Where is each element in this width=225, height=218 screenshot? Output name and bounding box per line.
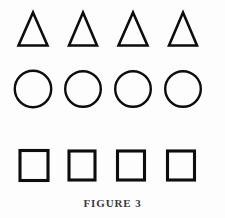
circle-shape-1 [13,68,53,108]
triangle-shape-4 [163,9,203,49]
square-icon [62,146,102,186]
square-shape-3 [111,146,151,186]
square-shape-1 [14,146,54,186]
circle-shape-4 [163,68,203,108]
triangle-shape-3 [113,9,153,49]
circle-icon [13,68,53,108]
square-icon [111,146,151,186]
figure-caption: FIGURE 3 [0,197,225,209]
shape-row-triangles [0,9,225,49]
shape-row-circles [0,68,225,108]
square-shape-2 [62,146,102,186]
circle-icon [113,68,153,108]
square-icon [14,146,54,186]
triangle-shape-2 [63,9,103,49]
triangle-icon [163,9,203,49]
circle-shape-3 [113,68,153,108]
square-icon [161,146,201,186]
triangle-shape-1 [13,9,53,49]
square-shape-4 [161,146,201,186]
circle-icon [163,68,203,108]
circle-shape-2 [63,68,103,108]
circle-icon [63,68,103,108]
figure-illustration: FIGURE 3 [0,0,225,218]
shape-row-squares [0,146,225,186]
triangle-icon [63,9,103,49]
triangle-icon [13,9,53,49]
triangle-icon [113,9,153,49]
